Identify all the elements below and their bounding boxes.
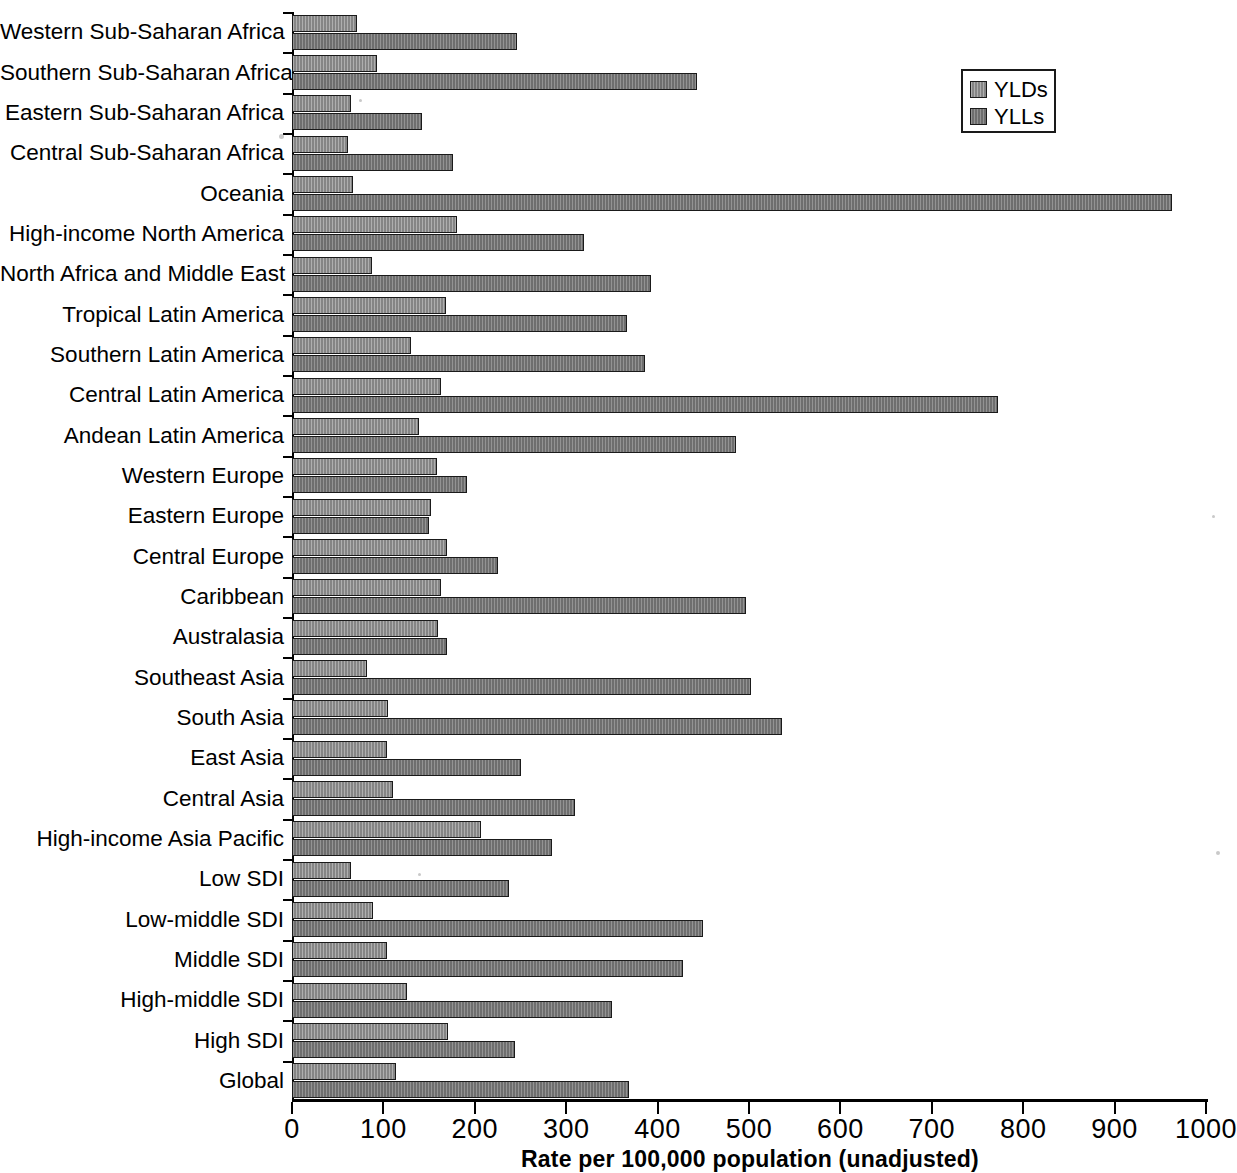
bar-ylds (292, 942, 387, 959)
bar-ylds (292, 700, 388, 717)
y-axis-label: Western Sub-Saharan Africa (0, 21, 284, 44)
bar-ylds (292, 741, 387, 758)
x-axis-tick-label: 600 (817, 1114, 864, 1145)
bar-ylds (292, 136, 348, 153)
bar-ylls (292, 234, 584, 251)
bar-ylds (292, 862, 351, 879)
bar-ylds (292, 579, 441, 596)
y-axis-label: Low SDI (0, 868, 284, 891)
bar-ylds (292, 821, 481, 838)
bar-ylls (292, 799, 575, 816)
bar-ylds (292, 95, 351, 112)
x-axis-tick-label: 100 (360, 1114, 407, 1145)
x-axis-tick-label: 0 (284, 1114, 300, 1145)
legend-label-ylls: YLLs (994, 106, 1044, 128)
x-axis-tick (657, 1102, 659, 1114)
legend-item-ylds[interactable]: YLDs (970, 76, 1054, 103)
legend-item-ylls[interactable]: YLLs (970, 103, 1054, 130)
y-axis-label: High-income North America (0, 223, 284, 246)
x-axis-tick (474, 1102, 476, 1114)
y-axis-label: Southeast Asia (0, 666, 284, 689)
bar-ylds (292, 983, 407, 1000)
bar-ylls (292, 194, 1172, 211)
x-axis-tick-label: 400 (634, 1114, 681, 1145)
y-axis-label: High SDI (0, 1029, 284, 1052)
bar-ylls (292, 880, 509, 897)
x-axis-title: Rate per 100,000 population (unadjusted) (292, 1146, 1208, 1173)
y-axis-label: Central Sub-Saharan Africa (0, 142, 284, 165)
bar-ylls (292, 920, 703, 937)
legend: YLDs YLLs (961, 69, 1056, 133)
y-axis-label: East Asia (0, 747, 284, 770)
bar-ylds (292, 297, 446, 314)
x-axis-tick (931, 1102, 933, 1114)
bar-ylls (292, 73, 697, 90)
x-axis-tick-label: 800 (1000, 1114, 1047, 1145)
bar-ylls (292, 839, 552, 856)
bar-ylls (292, 678, 751, 695)
bar-ylds (292, 378, 441, 395)
y-axis-label: Oceania (0, 182, 284, 205)
y-axis-label: Eastern Sub-Saharan Africa (0, 102, 284, 125)
bar-ylds (292, 418, 419, 435)
y-axis-label: Central Europe (0, 545, 284, 568)
bar-ylls (292, 638, 447, 655)
scan-speckle (1212, 515, 1215, 518)
bar-ylds (292, 902, 373, 919)
x-axis-tick (748, 1102, 750, 1114)
y-axis-label: Caribbean (0, 586, 284, 609)
x-axis-tick (1022, 1102, 1024, 1114)
bar-ylls (292, 960, 683, 977)
bar-ylds (292, 458, 437, 475)
y-axis-label: Central Latin America (0, 384, 284, 407)
bar-ylls (292, 33, 517, 50)
bar-ylls (292, 517, 429, 534)
y-axis-label: Southern Sub-Saharan Africa (0, 61, 284, 84)
bar-ylls (292, 396, 998, 413)
x-axis-tick (839, 1102, 841, 1114)
bar-ylls (292, 315, 627, 332)
y-axis-label: South Asia (0, 707, 284, 730)
bar-ylds (292, 15, 357, 32)
legend-swatch-ylds (970, 81, 987, 98)
x-axis-tick-label: 500 (726, 1114, 773, 1145)
bar-ylls (292, 436, 736, 453)
x-axis-tick-label: 1000 (1175, 1114, 1237, 1145)
bar-ylls (292, 597, 746, 614)
y-axis-label: Global (0, 1070, 284, 1093)
bar-ylls (292, 275, 651, 292)
bar-ylls (292, 154, 453, 171)
y-axis-label: High-middle SDI (0, 989, 284, 1012)
bar-ylls (292, 759, 521, 776)
y-axis-label: Eastern Europe (0, 505, 284, 528)
bar-ylls (292, 557, 498, 574)
bar-ylls (292, 476, 467, 493)
bar-ylls (292, 718, 782, 735)
bar-ylds (292, 337, 411, 354)
y-axis-label: Australasia (0, 626, 284, 649)
y-axis-label: Middle SDI (0, 949, 284, 972)
y-axis-label: Low-middle SDI (0, 908, 284, 931)
bar-ylds (292, 660, 367, 677)
y-axis-label: Central Asia (0, 787, 284, 810)
x-axis-tick-label: 200 (452, 1114, 499, 1145)
bar-ylds (292, 539, 447, 556)
y-axis-label: North Africa and Middle East (0, 263, 284, 286)
legend-swatch-ylls (970, 108, 987, 125)
x-axis-tick-label: 900 (1091, 1114, 1138, 1145)
bar-ylds (292, 499, 431, 516)
y-axis-label: Southern Latin America (0, 344, 284, 367)
y-axis-label: Western Europe (0, 465, 284, 488)
bar-ylls (292, 355, 645, 372)
bar-ylls (292, 1081, 629, 1098)
bar-ylds (292, 176, 353, 193)
bar-ylls (292, 1041, 515, 1058)
bar-ylls (292, 113, 422, 130)
plot-area (292, 12, 1206, 1101)
bar-ylds (292, 257, 372, 274)
y-axis-label: High-income Asia Pacific (0, 828, 284, 851)
scan-speckle (1216, 851, 1220, 855)
bar-ylds (292, 620, 438, 637)
legend-label-ylds: YLDs (994, 79, 1048, 101)
